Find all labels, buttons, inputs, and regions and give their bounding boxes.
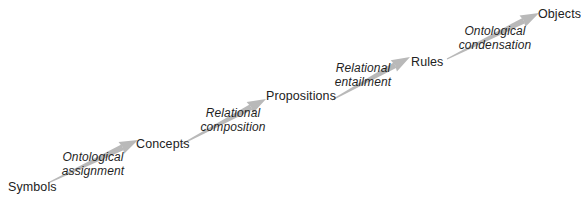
ladder-diagram: Symbols Concepts Propositions Rules Obje… <box>0 0 581 199</box>
transition-line-1: Relational <box>330 62 396 76</box>
transition-line-1: Ontological <box>60 151 126 165</box>
stage-label-symbols: Symbols <box>8 180 57 194</box>
stage-label-objects: Objects <box>538 7 581 21</box>
transition-line-2: entailment <box>330 76 396 90</box>
stage-label-concepts: Concepts <box>136 137 190 151</box>
transition-label-relational-composition: Relational composition <box>198 107 268 134</box>
transition-label-relational-entailment: Relational entailment <box>330 62 396 89</box>
transition-line-1: Ontological <box>458 25 532 39</box>
transition-label-ontological-condensation: Ontological condensation <box>458 25 532 52</box>
transition-line-2: composition <box>198 121 268 135</box>
transition-line-2: condensation <box>458 39 532 53</box>
stage-label-rules: Rules <box>411 55 443 69</box>
transition-label-ontological-assignment: Ontological assignment <box>60 151 126 178</box>
transition-line-2: assignment <box>60 165 126 179</box>
stage-label-propositions: Propositions <box>266 89 336 103</box>
transition-line-1: Relational <box>198 107 268 121</box>
